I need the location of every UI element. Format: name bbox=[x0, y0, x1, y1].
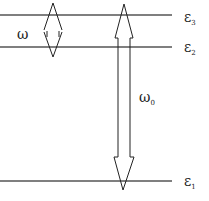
omega-symbol: ω bbox=[17, 26, 28, 42]
level-3-subscript: 3 bbox=[191, 19, 195, 27]
energy-diagram bbox=[0, 0, 209, 201]
omega-label: ω bbox=[17, 27, 28, 41]
omega-0-symbol: ω bbox=[139, 89, 150, 105]
omega-0-label: ω0 bbox=[139, 90, 155, 107]
level-2-subscript: 2 bbox=[191, 49, 195, 57]
omega-arrow-icon bbox=[44, 3, 62, 57]
level-2-label: ε2 bbox=[184, 40, 196, 57]
omega-0-subscript: 0 bbox=[150, 99, 154, 107]
level-1-subscript: 1 bbox=[191, 183, 195, 191]
omega-0-arrow-icon bbox=[114, 4, 134, 190]
level-1-label: ε1 bbox=[184, 174, 196, 191]
level-3-label: ε3 bbox=[184, 10, 196, 27]
